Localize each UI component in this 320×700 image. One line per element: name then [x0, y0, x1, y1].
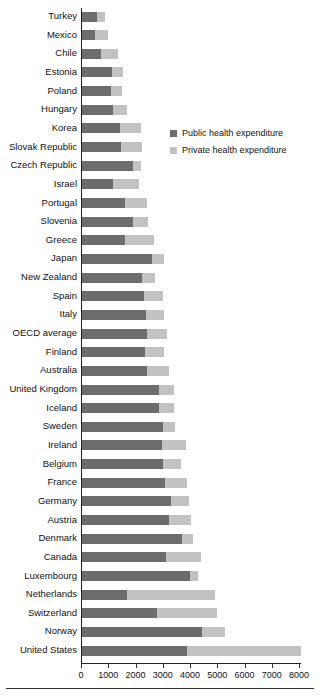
bar-segment-private [125, 198, 147, 208]
category-label: France [0, 475, 77, 488]
category-label: Spain [0, 289, 77, 302]
table-row: Greece [0, 234, 320, 247]
bar-segment-public [82, 67, 112, 77]
x-tick [81, 663, 82, 668]
category-label: Germany [0, 494, 77, 507]
table-row: Netherlands [0, 588, 320, 601]
x-tick [190, 663, 191, 668]
legend-swatch-icon [170, 147, 177, 154]
bar-segment-public [82, 403, 159, 413]
bar-segment-private [121, 142, 142, 152]
table-row: Germany [0, 495, 320, 508]
stacked-bar [82, 534, 193, 544]
stacked-bar [82, 496, 189, 506]
stacked-bar [82, 310, 164, 320]
bar-segment-private [157, 608, 217, 618]
bar-segment-public [82, 161, 133, 171]
x-tick [299, 663, 300, 668]
bar-segment-private [146, 310, 164, 320]
category-label: Korea [0, 121, 77, 134]
category-label: Japan [0, 251, 77, 264]
table-row: Israel [0, 178, 320, 191]
stacked-bar [82, 366, 169, 376]
category-label: Greece [0, 233, 77, 246]
stacked-bar [82, 440, 186, 450]
bottom-rule [6, 688, 314, 689]
category-label: Czech Republic [0, 158, 77, 171]
table-row: Czech Republic [0, 159, 320, 172]
stacked-bar [82, 627, 225, 637]
table-row: Norway [0, 625, 320, 638]
category-label: Australia [0, 363, 77, 376]
x-tick-label: 8000 [279, 670, 319, 681]
x-tick [108, 663, 109, 668]
stacked-bar [82, 67, 123, 77]
category-label: Denmark [0, 531, 77, 544]
table-row: Poland [0, 85, 320, 98]
table-row: Estonia [0, 66, 320, 79]
bar-segment-private [163, 422, 175, 432]
category-label: Belgium [0, 457, 77, 470]
category-label: Sweden [0, 419, 77, 432]
category-label: Slovak Republic [0, 140, 77, 153]
stacked-bar [82, 235, 154, 245]
table-row: United Kingdom [0, 383, 320, 396]
stacked-bar [82, 49, 118, 59]
plot-area: TurkeyMexicoChileEstoniaPolandHungaryKor… [0, 0, 320, 700]
bar-segment-private [133, 217, 148, 227]
stacked-bar [82, 161, 141, 171]
category-label: Estonia [0, 65, 77, 78]
category-label: United Kingdom [0, 382, 77, 395]
category-label: Chile [0, 46, 77, 59]
bar-segment-public [82, 254, 152, 264]
stacked-bar [82, 478, 187, 488]
category-label: Hungary [0, 102, 77, 115]
category-label: Austria [0, 513, 77, 526]
category-label: Poland [0, 84, 77, 97]
bar-segment-private [169, 515, 191, 525]
table-row: Turkey [0, 10, 320, 23]
stacked-bar [82, 142, 142, 152]
category-label: Luxembourg [0, 569, 77, 582]
x-tick [136, 663, 137, 668]
stacked-bar [82, 347, 164, 357]
health-expenditure-chart: TurkeyMexicoChileEstoniaPolandHungaryKor… [0, 0, 320, 700]
stacked-bar [82, 179, 139, 189]
table-row: United States [0, 644, 320, 657]
table-row: Austria [0, 514, 320, 527]
category-label: Switzerland [0, 606, 77, 619]
stacked-bar [82, 385, 174, 395]
bar-segment-private [171, 496, 190, 506]
stacked-bar [82, 86, 122, 96]
table-row: Finland [0, 346, 320, 359]
bar-segment-public [82, 571, 190, 581]
stacked-bar [82, 30, 108, 40]
table-row: Belgium [0, 458, 320, 471]
bar-segment-private [182, 534, 192, 544]
bar-segment-private [166, 552, 201, 562]
bar-segment-private [97, 12, 105, 22]
stacked-bar [82, 12, 105, 22]
bar-segment-public [82, 552, 166, 562]
bar-segment-private [159, 385, 174, 395]
stacked-bar [82, 590, 215, 600]
bar-segment-private [163, 459, 181, 469]
stacked-bar [82, 608, 217, 618]
stacked-bar [82, 217, 148, 227]
bar-segment-private [147, 366, 169, 376]
x-tick [272, 663, 273, 668]
chart-legend: Public health expenditurePrivate health … [170, 126, 287, 160]
bar-segment-private [165, 478, 187, 488]
table-row: New Zealand [0, 271, 320, 284]
legend-item: Private health expenditure [170, 143, 287, 157]
table-row: Australia [0, 364, 320, 377]
category-label: Norway [0, 624, 77, 637]
bar-segment-private [202, 627, 225, 637]
bar-segment-public [82, 534, 182, 544]
table-row: Denmark [0, 532, 320, 545]
table-row: Iceland [0, 402, 320, 415]
category-label: Finland [0, 345, 77, 358]
stacked-bar [82, 552, 201, 562]
table-row: Luxembourg [0, 570, 320, 583]
bar-segment-public [82, 310, 146, 320]
